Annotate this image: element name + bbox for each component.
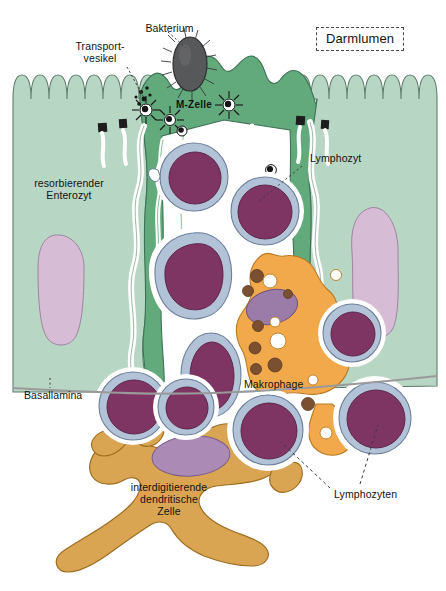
label-resorbierender-enterozyt-line1: resorbierender (17, 177, 121, 189)
label-basallamina: Basallamina (24, 389, 82, 401)
lymphocyte-2 (226, 172, 304, 250)
lymphocyte-9 (153, 374, 219, 440)
bacterium-highlight (179, 44, 191, 66)
lymphocyte-7 (333, 376, 417, 460)
label-dendritische-zelle-line3: Zelle (114, 505, 224, 517)
label-darmlumen: Darmlumen (316, 27, 404, 51)
lymphocyte-3 (149, 227, 237, 326)
figure-root: Darmlumen Bakterium Transport- vesikel M… (0, 0, 446, 591)
label-lymphozyten: Lymphozyten (334, 488, 397, 500)
label-transportvesikel-line2: vesikel (62, 52, 138, 64)
label-m-zelle: M-Zelle (163, 99, 225, 111)
bacterium-body (173, 37, 207, 91)
junction-right-inner (321, 120, 330, 130)
junction-right-outer (296, 116, 306, 126)
lymphocyte-8 (318, 299, 386, 367)
junction-left-inner (119, 119, 128, 129)
label-transportvesikel-line1: Transport- (62, 40, 138, 52)
label-makrophage: Makrophage (244, 378, 303, 390)
transport-vesicle-4 (177, 126, 187, 136)
label-lymphozyt: Lymphozyt (310, 152, 361, 164)
label-dendritische-zelle-line2: dendritische (114, 493, 224, 505)
macrophage-arm-vacuole (320, 427, 332, 439)
label-dendritische-zelle-line1: interdigitierende (114, 481, 224, 493)
lymphocyte-6 (227, 389, 309, 471)
label-bakterium: Bakterium (112, 22, 227, 34)
label-resorbierender-enterozyt-line2: Enterozyt (17, 189, 121, 201)
transport-vesicle-1 (132, 96, 160, 124)
enterocyte-nucleus-left (38, 235, 84, 345)
junction-left-outer (98, 123, 108, 133)
